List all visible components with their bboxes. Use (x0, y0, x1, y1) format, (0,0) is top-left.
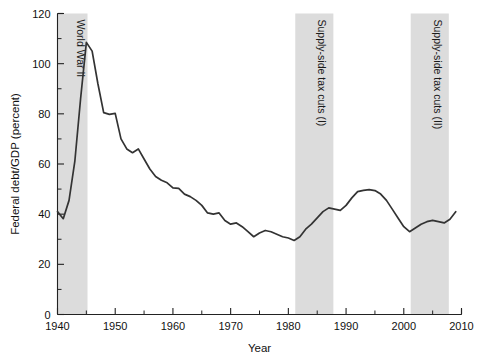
y-tick-label-20: 20 (38, 258, 50, 270)
axis-ticks (58, 14, 462, 315)
y-tick-label-80: 80 (38, 108, 50, 120)
y-tick-label-40: 40 (38, 208, 50, 220)
y-tick-label-120: 120 (32, 8, 50, 20)
x-tick-label-1970: 1970 (218, 320, 242, 332)
y-tick-label-60: 60 (38, 158, 50, 170)
x-tick-label-1990: 1990 (334, 320, 358, 332)
chart-axes (58, 14, 462, 315)
x-tick-label-2010: 2010 (449, 320, 473, 332)
chart-container: World War IISupply-side tax cuts (I)Supp… (0, 0, 483, 360)
x-tick-label-1960: 1960 (161, 320, 185, 332)
band-label-1: World War II (75, 20, 87, 78)
x-axis-title: Year (248, 342, 271, 354)
y-tick-label-100: 100 (32, 58, 50, 70)
series-line-1 (58, 42, 456, 240)
band-label-3: Supply-side tax cuts (II) (432, 20, 444, 130)
band-label-2: Supply-side tax cuts (I) (316, 20, 328, 127)
x-tick-label-1950: 1950 (103, 320, 127, 332)
y-axis-title: Federal debt/GDP (percent) (9, 93, 21, 235)
x-tick-label-1980: 1980 (276, 320, 300, 332)
shaded-period-bands: World War IISupply-side tax cuts (I)Supp… (58, 14, 449, 315)
x-tick-label-1940: 1940 (45, 320, 69, 332)
axis-tick-labels: 0204060801001201940195019601970198019902… (32, 8, 474, 332)
debt-to-gdp-line-chart: World War IISupply-side tax cuts (I)Supp… (0, 0, 483, 360)
x-tick-label-2000: 2000 (392, 320, 416, 332)
data-series (58, 42, 456, 240)
